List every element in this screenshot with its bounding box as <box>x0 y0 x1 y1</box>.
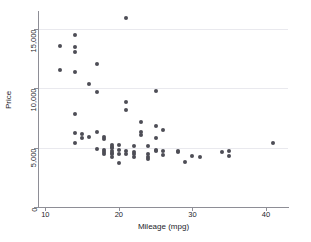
data-point <box>73 50 77 54</box>
data-point <box>124 152 128 156</box>
data-point <box>73 131 77 135</box>
data-point <box>87 135 91 139</box>
data-point <box>124 16 128 20</box>
data-point <box>58 68 62 72</box>
data-point <box>117 161 121 165</box>
data-point <box>183 160 187 164</box>
x-tick-label-10: 10 <box>41 210 49 219</box>
x-tick-label-20: 20 <box>115 210 123 219</box>
data-point <box>154 149 158 153</box>
data-point <box>87 82 91 86</box>
x-axis-title: Mileage (mpg) <box>38 222 289 231</box>
data-point <box>154 89 158 93</box>
data-point <box>117 152 121 156</box>
data-point <box>227 154 231 158</box>
data-point <box>80 132 84 136</box>
data-point <box>102 152 106 156</box>
data-point <box>161 153 165 157</box>
x-axis-line <box>38 207 289 208</box>
x-tick-label-30: 30 <box>188 210 196 219</box>
data-point <box>110 155 114 159</box>
y-tick-label-15000: 15,000 <box>30 29 39 52</box>
x-tick-label-40: 40 <box>262 210 270 219</box>
data-point <box>139 133 143 137</box>
data-point <box>146 144 150 148</box>
data-point <box>95 90 99 94</box>
data-point <box>95 130 99 134</box>
data-point <box>139 120 143 124</box>
plot-area <box>38 11 288 207</box>
gridline-y-15000 <box>38 29 288 30</box>
data-point <box>95 147 99 151</box>
data-point <box>154 136 158 140</box>
y-tick-labels: 05,00010,00015,000 <box>0 0 34 242</box>
data-point <box>220 150 224 154</box>
data-point <box>176 150 180 154</box>
data-point <box>58 44 62 48</box>
data-point <box>132 155 136 159</box>
gridline-y-10000 <box>38 88 288 89</box>
data-point <box>198 155 202 159</box>
data-point <box>271 141 275 145</box>
data-point <box>73 33 77 37</box>
data-point <box>73 70 77 74</box>
data-point <box>124 100 128 104</box>
y-tick-label-5000: 5,000 <box>30 148 39 167</box>
data-point <box>73 141 77 145</box>
data-point <box>95 62 99 66</box>
data-point <box>73 45 77 49</box>
data-point <box>227 149 231 153</box>
data-point <box>73 112 77 116</box>
scatter-plot-figure: 05,00010,00015,000 10203040 Price Mileag… <box>0 0 311 242</box>
data-point <box>190 154 194 158</box>
data-point <box>154 124 158 128</box>
y-tick-label-10000: 10,000 <box>30 89 39 112</box>
data-point <box>146 157 150 161</box>
y-tick-label-0: 0 <box>30 208 39 212</box>
y-axis-title: Price <box>4 91 13 109</box>
data-point <box>80 136 84 140</box>
data-point <box>161 128 165 132</box>
data-point <box>124 108 128 112</box>
data-point <box>102 137 106 141</box>
